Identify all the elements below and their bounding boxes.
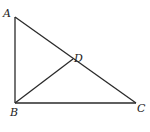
label-b: B	[9, 106, 18, 119]
label-a: A	[2, 7, 11, 20]
label-d: D	[73, 52, 83, 65]
label-c: C	[137, 102, 146, 115]
triangle-figure: A B C D	[0, 0, 150, 132]
geometry-diagram: A B C D	[0, 0, 150, 132]
segment-bd	[15, 59, 73, 103]
